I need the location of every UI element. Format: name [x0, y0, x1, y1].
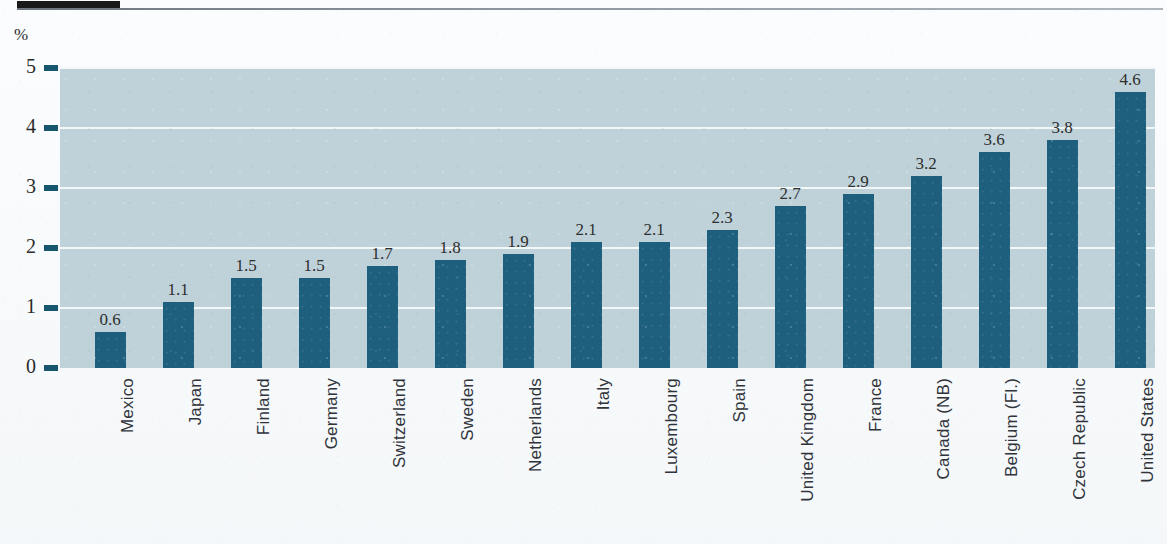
bar	[639, 242, 670, 368]
category-label: Spain	[730, 378, 750, 422]
category-label: Canada (NB)	[934, 378, 954, 479]
category-label: France	[866, 378, 886, 432]
bar	[843, 194, 874, 368]
y-axis-tick-mark-4	[44, 125, 58, 131]
y-axis-unit-label: %	[14, 25, 29, 45]
bar-value-label: 3.2	[896, 154, 956, 174]
category-label: Czech Republic	[1070, 378, 1090, 500]
bar-value-label: 1.1	[148, 280, 208, 300]
bar-value-label: 2.3	[692, 208, 752, 228]
bar-value-label: 1.9	[488, 232, 548, 252]
y-axis-tick-mark-2	[44, 245, 58, 251]
category-label: Finland	[254, 378, 274, 435]
bar	[571, 242, 602, 368]
gridline-4	[60, 127, 1155, 129]
bar-value-label: 1.8	[420, 238, 480, 258]
category-label: Italy	[594, 378, 614, 410]
category-label: United States	[1138, 378, 1158, 483]
category-label: Switzerland	[390, 378, 410, 468]
bar	[367, 266, 398, 368]
bar-value-label: 2.1	[624, 220, 684, 240]
y-axis-tick-label-5: 5	[10, 55, 36, 78]
category-label: Mexico	[118, 378, 138, 433]
y-axis-tick-mark-1	[44, 305, 58, 311]
bar-value-label: 2.1	[556, 220, 616, 240]
bar	[775, 206, 806, 368]
bar-value-label: 3.8	[1032, 118, 1092, 138]
y-axis-tick-mark-3	[44, 185, 58, 191]
page-header-black-marker	[17, 1, 120, 8]
bar	[1047, 140, 1078, 368]
y-axis-tick-label-3: 3	[10, 175, 36, 198]
y-axis-tick-mark-0	[44, 365, 58, 371]
bar	[231, 278, 262, 368]
chart-plot-area	[60, 68, 1155, 368]
bar	[299, 278, 330, 368]
bar	[1115, 92, 1146, 368]
bar	[435, 260, 466, 368]
category-label: Japan	[186, 378, 206, 425]
y-axis-tick-label-4: 4	[10, 115, 36, 138]
category-label: Germany	[322, 378, 342, 449]
bar-value-label: 0.6	[80, 310, 140, 330]
bar	[979, 152, 1010, 368]
category-label: Belgium (Fl.)	[1002, 378, 1022, 477]
bar-value-label: 2.9	[828, 172, 888, 192]
bar-value-label: 1.5	[216, 256, 276, 276]
bar	[707, 230, 738, 368]
bar-value-label: 4.6	[1100, 70, 1160, 90]
category-label: Netherlands	[526, 378, 546, 472]
bar-value-label: 2.7	[760, 184, 820, 204]
bar	[163, 302, 194, 368]
y-axis-tick-label-2: 2	[10, 235, 36, 258]
category-label: Sweden	[458, 378, 478, 441]
bar	[95, 332, 126, 368]
y-axis-tick-label-0: 0	[10, 355, 36, 378]
category-label: United Kingdom	[798, 378, 818, 502]
y-axis-tick-mark-5	[44, 65, 58, 71]
page-header-rule	[17, 8, 1163, 10]
bar	[503, 254, 534, 368]
gridline-5	[60, 67, 1155, 69]
bar-value-label: 1.7	[352, 244, 412, 264]
bar	[911, 176, 942, 368]
y-axis-tick-label-1: 1	[10, 295, 36, 318]
page-canvas: % 543210 MexicoJapanFinlandGermanySwitze…	[0, 0, 1167, 544]
bar-value-label: 1.5	[284, 256, 344, 276]
category-label: Luxembourg	[662, 378, 682, 475]
bar-value-label: 3.6	[964, 130, 1024, 150]
